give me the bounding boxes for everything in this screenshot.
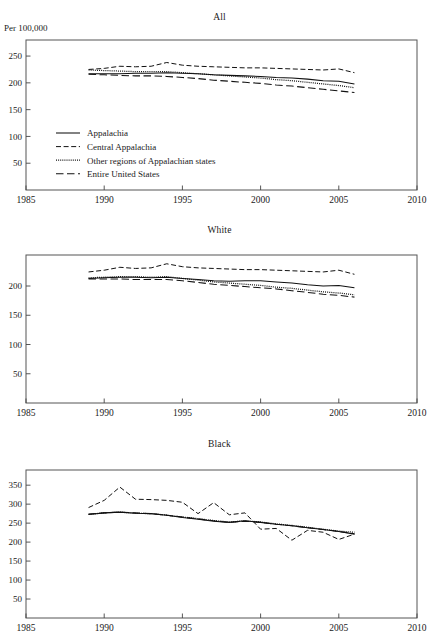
series-line	[89, 70, 355, 88]
series-line	[89, 487, 355, 540]
x-tick-label: 2010	[408, 408, 427, 418]
x-tick-label: 2005	[329, 408, 348, 418]
y-tick-label: 350	[9, 480, 23, 490]
y-tick-label: 100	[9, 340, 23, 350]
series-line	[89, 63, 355, 73]
x-tick-label: 2000	[251, 408, 270, 418]
series-line	[89, 73, 355, 84]
x-tick-label: 1985	[17, 195, 36, 205]
legend: AppalachiaCentral AppalachiaOther region…	[56, 128, 216, 179]
y-tick-label: 150	[9, 105, 23, 115]
y-tick-label: 200	[9, 537, 23, 547]
y-tick-label: 250	[9, 518, 23, 528]
x-tick-label: 1990	[95, 623, 114, 633]
x-tick-label: 1990	[95, 195, 114, 205]
y-tick-label: 250	[9, 51, 23, 61]
y-tick-label: 200	[9, 281, 23, 291]
x-tick-label: 2010	[408, 195, 427, 205]
x-tick-label: 1985	[17, 623, 36, 633]
y-tick-label: 100	[9, 132, 23, 142]
x-tick-label: 1995	[173, 623, 192, 633]
x-tick-label: 1995	[173, 408, 192, 418]
series-line	[89, 264, 355, 275]
legend-label: Entire United States	[87, 169, 160, 179]
legend-label: Central Appalachia	[87, 142, 156, 152]
y-tick-label: 50	[13, 158, 23, 168]
plot-area: 5010015020025030035019851990199520002005…	[0, 428, 439, 644]
x-tick-label: 2005	[329, 195, 348, 205]
y-tick-label: 50	[13, 594, 23, 604]
y-tick-label: 50	[13, 369, 23, 379]
x-tick-label: 2010	[408, 623, 427, 633]
chart-panel-black: Black50100150200250300350198519901995200…	[0, 428, 439, 644]
series-line	[89, 279, 355, 297]
x-tick-label: 1985	[17, 408, 36, 418]
y-tick-label: 150	[9, 310, 23, 320]
x-tick-label: 1995	[173, 195, 192, 205]
legend-label: Other regions of Appalachian states	[87, 156, 216, 166]
x-tick-label: 2000	[251, 195, 270, 205]
x-tick-label: 2000	[251, 623, 270, 633]
y-tick-label: 200	[9, 78, 23, 88]
x-tick-label: 2005	[329, 623, 348, 633]
plot-area: 50100150200250198519901995200020052010Ap…	[0, 0, 439, 215]
chart-panel-all: AllPer 100,00050100150200250198519901995…	[0, 0, 439, 215]
y-tick-label: 300	[9, 499, 23, 509]
chart-panel-white: White50100150200198519901995200020052010	[0, 215, 439, 428]
plot-area: 50100150200198519901995200020052010	[0, 215, 439, 428]
figure-mortality-trends: AllPer 100,00050100150200250198519901995…	[0, 0, 439, 644]
x-tick-label: 1990	[95, 408, 114, 418]
y-tick-label: 100	[9, 575, 23, 585]
series-line	[89, 512, 355, 534]
legend-label: Appalachia	[87, 128, 128, 138]
y-tick-label: 150	[9, 556, 23, 566]
series-line	[89, 74, 355, 92]
